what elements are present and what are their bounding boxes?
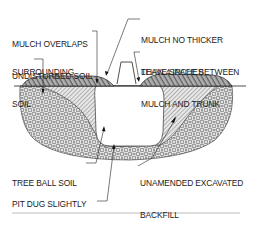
label-line: MULCH NO THICKER xyxy=(141,35,223,46)
label-leave-space: LEAVE SPACE BETWEEN MULCH AND TRUNK xyxy=(141,46,239,120)
label-line: SOIL xyxy=(12,99,74,110)
label-line: UNAMENDED EXCAVATED xyxy=(140,178,243,189)
label-line: SURROUNDING xyxy=(12,67,74,78)
label-unamended-backfill: UNAMENDED EXCAVATED BACKFILL xyxy=(140,157,243,218)
label-line: LEAVE SPACE BETWEEN xyxy=(141,67,239,78)
tree-trunk xyxy=(117,62,136,84)
label-line: MULCH AND TRUNK xyxy=(141,99,239,110)
label-line: PIT DUG SLIGHTLY xyxy=(12,199,89,210)
label-surrounding-soil: SURROUNDING SOIL xyxy=(12,46,74,120)
label-pit-depth: PIT DUG SLIGHTLY SHALLOWER THAN TREE BAL… xyxy=(12,178,89,218)
label-line: BACKFILL xyxy=(140,210,243,219)
